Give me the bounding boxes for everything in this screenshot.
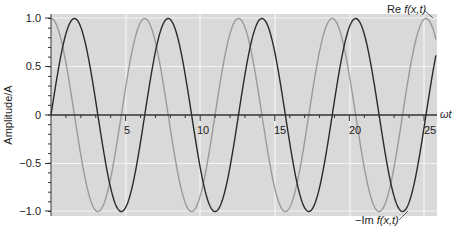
y-tick-labels: 1.0 0.5 0 −0.5 −1.0 [19,12,41,217]
x-tick-label: 5 [124,124,130,136]
re-italic: f(x,t) [404,3,426,15]
x-axis-label: ωt [440,108,453,120]
y-tick-label: 1.0 [26,12,41,24]
y-tick-label: −1.0 [19,205,41,217]
y-tick-label: 0.5 [26,60,41,72]
x-tick-label: 25 [424,124,436,136]
im-italic: f(x,t) [377,214,399,226]
y-axis-label: Amplitude/A [2,85,14,145]
im-annotation: −Im f(x,t) [355,214,399,226]
chart: 1.0 0.5 0 −0.5 −1.0 5 10 15 20 25 Amplit… [0,0,454,229]
y-tick-label: 0 [35,109,41,121]
x-tick-label: 10 [197,124,209,136]
x-tick-label: 15 [274,124,286,136]
re-annotation: Re f(x,t) [387,3,426,15]
im-prefix: −Im [355,214,377,226]
x-tick-label: 20 [349,124,361,136]
y-axis [45,14,51,216]
y-tick-label: −0.5 [19,157,41,169]
re-prefix: Re [387,3,404,15]
